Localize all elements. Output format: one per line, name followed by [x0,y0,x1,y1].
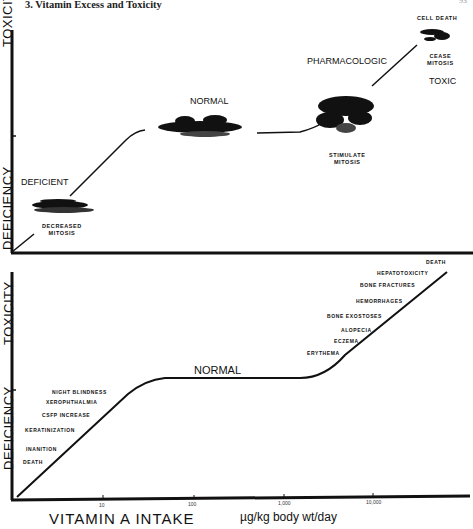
toxicity-symptom: HEMORRHAGES [356,298,403,304]
toxicity-symptom: ALOPECIA [341,327,372,333]
x-tick: 10 [99,502,105,508]
bottom-y-label-toxicity: TOXICITY [1,281,16,345]
stage-label-toxic: TOXIC [429,76,456,86]
top-y-label-deficiency: DEFICIENCY [0,166,15,250]
toxicity-symptom: ERYTHEMA [307,350,340,356]
toxicity-symptom: BONE FRACTURES [360,282,415,288]
x-axis-label: VITAMIN A INTAKE [49,510,194,527]
top-y-label-toxicity: TOXICITY [0,0,15,47]
stage-label-pharmacologic: PHARMACOLOGIC [307,56,387,66]
deficiency-symptom: CSFP INCREASE [42,412,90,418]
deficiency-symptom: INANITION [26,446,57,452]
toxic-cells-cluster [420,29,450,41]
stage-caption-pharmacologic: STIMULATE MITOSIS [329,152,365,166]
diagram-lines [0,0,473,529]
x-axis-unit: µg/kg body wt/day [240,510,337,524]
deficiency-symptom: NIGHT BLINDNESS [52,389,107,395]
toxicity-symptom: ECZEMA [334,338,359,344]
bottom-y-label-deficiency: DEFICIENCY [1,386,16,470]
deficiency-symptom: KERATINIZATION [25,427,75,433]
pharmacologic-cells-cluster [316,96,374,133]
x-tick: 1,000 [278,500,291,506]
toxicity-symptom: HEPATOTOXICITY [377,270,428,276]
deficient-cells-cluster [32,199,94,213]
stage-caption-toxic: CEASE MITOSIS [427,53,454,67]
toxicity-symptom: BONE EXOSTOSES [327,313,382,319]
stage-top-caption-toxic: CELL DEATH [417,15,457,22]
stage-label-deficient: DEFICIENT [21,177,69,187]
stage-label-normal: NORMAL [190,96,229,106]
x-tick: 10,000 [366,499,381,505]
normal-cells-cluster [158,115,242,137]
deficiency-symptom: DEATH [23,459,43,465]
deficiency-symptom: XEROPHTHALMIA [46,399,97,405]
normal-label: NORMAL [194,364,241,376]
stage-caption-deficient: DECREASED MITOSIS [42,223,82,237]
x-tick: 100 [188,501,196,507]
toxicity-symptom: DEATH [426,259,446,265]
